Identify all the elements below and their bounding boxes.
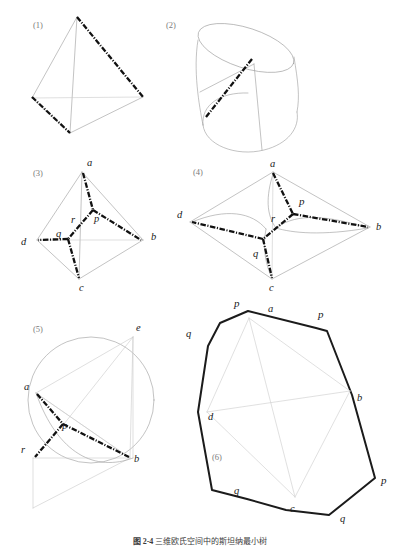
p5-label-e: e bbox=[136, 322, 141, 333]
figure-caption-number: 图 2-4 bbox=[133, 537, 154, 546]
figure-caption: 图 2-4 三维欧氏空间中的斯坦纳最小树 bbox=[0, 535, 400, 548]
p1-bold-edge-left-front bbox=[32, 97, 70, 133]
p5-line-p-e bbox=[64, 337, 133, 424]
panel-6-heavy-octagon bbox=[198, 311, 375, 515]
p6-label-p-right: p bbox=[380, 474, 387, 486]
panel-number-3: (3) bbox=[33, 168, 43, 178]
p6-label-a: a bbox=[268, 303, 273, 314]
panel-number-1: (1) bbox=[33, 20, 43, 30]
panel-5-circle-construction bbox=[28, 337, 154, 508]
p2-top-ellipse bbox=[192, 14, 299, 83]
p5-chord-ae bbox=[36, 337, 133, 393]
p6-inner-db bbox=[207, 391, 350, 412]
p2-inner-line-right bbox=[254, 64, 262, 150]
p5-label-p: p bbox=[61, 419, 68, 431]
p4-curve-d-center bbox=[192, 214, 266, 229]
p1-edge-apex-front bbox=[70, 17, 77, 133]
p4-label-p: p bbox=[298, 195, 305, 207]
panel-5-labels: a b e p r bbox=[21, 322, 141, 464]
p6-outline bbox=[198, 311, 375, 515]
p2-wall-right bbox=[294, 57, 298, 112]
p6-label-q-bottomleft: q bbox=[234, 485, 239, 496]
p1-edge-front-right bbox=[70, 97, 143, 133]
p6-label-p-topright: p bbox=[317, 308, 324, 320]
p4-tree-a-p bbox=[273, 173, 293, 214]
p3-edge-cb bbox=[79, 240, 143, 279]
p6-label-d: d bbox=[208, 411, 214, 422]
panel-1-tetrahedron bbox=[32, 17, 143, 133]
p2-bottom-arc-front bbox=[203, 112, 297, 152]
p3-tree-p-b bbox=[93, 210, 141, 240]
panel-2-cylinder bbox=[192, 14, 299, 152]
p4-label-a: a bbox=[270, 158, 275, 169]
p4-edge-da bbox=[190, 172, 273, 222]
p4-label-b: b bbox=[376, 221, 381, 232]
p1-edge-hidden-back bbox=[32, 97, 143, 98]
p5-diag-lower bbox=[33, 458, 130, 508]
p3-label-c: c bbox=[79, 282, 84, 293]
p6-label-q-bottomright: q bbox=[340, 513, 345, 524]
p3-label-b: b bbox=[151, 231, 156, 242]
p6-inner-bc bbox=[295, 391, 350, 497]
p3-label-r: r bbox=[71, 214, 76, 225]
p3-label-d: d bbox=[21, 236, 27, 247]
p4-tree-p-b bbox=[293, 214, 368, 227]
p6-inner-da bbox=[207, 318, 249, 412]
p5-label-b: b bbox=[134, 453, 139, 464]
p2-wall-left bbox=[196, 40, 203, 125]
p2-bottom-arc-back bbox=[203, 93, 248, 125]
p4-label-q: q bbox=[253, 248, 258, 259]
p3-label-q: q bbox=[56, 228, 61, 239]
panel-4-unfolded-rhombus bbox=[190, 172, 370, 279]
p5-tree-p-b bbox=[63, 424, 129, 457]
panel-number-group: (1) (2) (3) (4) (5) (6) bbox=[33, 20, 222, 462]
p6-label-b: b bbox=[357, 392, 362, 403]
p4-label-r: r bbox=[271, 213, 276, 224]
p3-label-a: a bbox=[87, 157, 92, 168]
p5-circle bbox=[28, 337, 154, 463]
p5-tree-p-r bbox=[35, 424, 63, 457]
p4-label-d: d bbox=[177, 209, 183, 220]
p6-label-p-topleft: p bbox=[233, 297, 240, 309]
p3-tree-q-c bbox=[68, 239, 79, 278]
p4-label-c: c bbox=[269, 282, 274, 293]
p5-label-r: r bbox=[21, 444, 26, 455]
p6-label-c: c bbox=[290, 503, 295, 514]
figure-caption-text: 三维欧氏空间中的斯坦纳最小树 bbox=[155, 537, 267, 546]
p2-bold-generatrix bbox=[206, 59, 252, 117]
p3-label-p: p bbox=[93, 213, 99, 224]
p1-bold-edge-apex-right bbox=[77, 17, 143, 97]
p6-label-q-left: q bbox=[186, 328, 191, 339]
panel-3-steiner-tetrahedron bbox=[37, 172, 143, 279]
p4-edge-bc bbox=[272, 227, 370, 279]
panel-number-4: (4) bbox=[193, 167, 203, 177]
panel-number-6: (6) bbox=[212, 452, 222, 462]
p5-label-a: a bbox=[24, 381, 29, 392]
p4-diagonal-ac bbox=[272, 172, 273, 279]
panel-number-5: (5) bbox=[33, 324, 43, 334]
p5-chord-eb bbox=[130, 337, 133, 458]
p6-inner-ac bbox=[249, 318, 295, 497]
p6-inner-ab bbox=[249, 318, 350, 391]
panel-number-2: (2) bbox=[166, 20, 176, 30]
p4-curve-b-back bbox=[276, 228, 368, 233]
figure-canvas: (1) (2) (3) (4) (5) (6) a b c d p q r a … bbox=[0, 0, 400, 548]
